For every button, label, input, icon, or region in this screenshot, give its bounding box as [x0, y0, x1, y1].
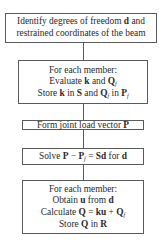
- step-solve: Solve P − Pf = Sd for d: [22, 148, 144, 165]
- text: and: [129, 16, 145, 26]
- text: Identify degrees of freedom: [17, 16, 124, 26]
- step-member-stiffness: For each member: Evaluate k and Qf Store…: [18, 60, 148, 104]
- text: Obtain: [52, 195, 80, 205]
- text: Calculate: [41, 207, 79, 217]
- step-joint-load: Form joint load vector P: [22, 120, 144, 130]
- step-line: Solve P − Pf = Sd for d: [39, 151, 127, 163]
- step-member-forces: For each member: Obtain u from d Calcula…: [22, 180, 144, 234]
- step-line: Evaluate k and Qf: [49, 76, 117, 88]
- connector-2-3: [83, 104, 84, 120]
- step-line: For each member:: [49, 184, 117, 196]
- step-line: Obtain u from d: [52, 195, 113, 207]
- text: and: [90, 76, 108, 86]
- operator-minus: −: [68, 151, 78, 161]
- symbol-d: d: [122, 151, 127, 161]
- text: in: [109, 88, 121, 98]
- step-line: For each member:: [49, 65, 117, 77]
- text: Form joint load vector: [37, 120, 123, 130]
- symbol-Sd: Sd: [96, 151, 106, 161]
- text: and: [82, 88, 100, 98]
- symbol-Q: Q: [100, 88, 107, 98]
- text: for: [106, 151, 122, 161]
- text: Store: [59, 219, 81, 229]
- symbol-P: P: [123, 120, 129, 130]
- text: Solve: [39, 151, 63, 161]
- step-line: Calculate Q = ku + Qf: [41, 207, 125, 219]
- symbol-Q: Q: [116, 207, 123, 217]
- step-line: Store k in S and Qf in Pf: [37, 88, 128, 100]
- text: in: [88, 219, 100, 229]
- symbol-R: R: [100, 219, 107, 229]
- step-line: Identify degrees of freedom d and: [17, 16, 145, 28]
- subscript-f: f: [127, 93, 129, 99]
- symbol-Q: Q: [108, 76, 115, 86]
- step-identify-dof: Identify degrees of freedom d and restra…: [5, 13, 157, 43]
- subscript-f: f: [115, 81, 117, 87]
- step-line: Form joint load vector P: [37, 120, 129, 130]
- symbol-Q: Q: [79, 207, 86, 217]
- text: Evaluate: [49, 76, 84, 86]
- text: Store: [37, 88, 59, 98]
- operator-equals: =: [86, 151, 96, 161]
- connector-1-2: [83, 43, 84, 60]
- connector-4-5: [83, 165, 84, 180]
- step-line: restrained coordinates of the beam: [16, 28, 145, 40]
- symbol-ku: ku: [96, 207, 106, 217]
- operator-plus: +: [106, 207, 116, 217]
- text: from: [85, 195, 108, 205]
- operator-equals: =: [86, 207, 96, 217]
- subscript-f: f: [124, 212, 126, 218]
- connector-3-4: [83, 130, 84, 148]
- text: in: [65, 88, 77, 98]
- step-line: Store Q in R: [59, 219, 107, 231]
- symbol-d: d: [108, 195, 113, 205]
